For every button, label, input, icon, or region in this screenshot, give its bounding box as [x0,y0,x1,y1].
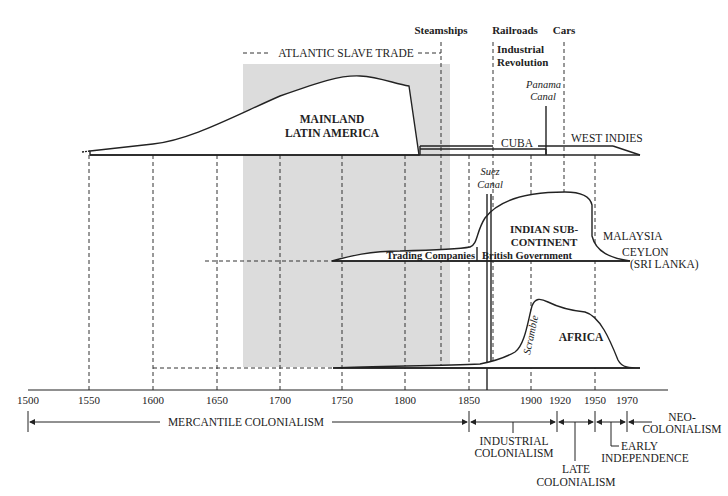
panama-canal-label-1: Panama [525,79,561,90]
neo-colonialism-label-2: COLONIALISM [642,423,721,435]
india-label-1: INDIAN SUB- [510,223,578,235]
west-indies-label: WEST INDIES [571,132,643,144]
neo-colonialism-label-1: NEO- [668,411,696,423]
cars-label: Cars [553,24,576,36]
malaysia-label: MALAYSIA [603,230,663,242]
period-bars [28,411,652,461]
industrial-revolution-label-2: Revolution [497,56,548,68]
panama-canal-label-2: Canal [530,91,556,102]
steamships-label: Steamships [414,24,468,36]
svg-text:1700: 1700 [269,394,292,406]
railroads-label: Railroads [492,24,538,36]
svg-text:1500: 1500 [17,394,40,406]
svg-text:1850: 1850 [458,394,481,406]
svg-text:1970: 1970 [616,394,639,406]
svg-text:1900: 1900 [520,394,543,406]
axis-tick-labels: 1500 1550 1600 1650 1700 1750 1800 1850 … [17,394,639,406]
india-label-2: CONTINENT [511,236,578,248]
suez-canal-label-1: Suez [480,166,499,177]
early-independence-label-2: INDEPENDENCE [601,452,689,464]
british-government-label: British Government [482,250,573,261]
early-independence-label-1: EARLY [621,440,659,452]
suez-canal-label-2: Canal [477,179,503,190]
slave-trade-label: ATLANTIC SLAVE TRADE [278,47,414,59]
industrial-colonialism-label-2: COLONIALISM [474,447,553,459]
industrial-colonialism-label-1: INDUSTRIAL [480,435,549,447]
cuba-label: CUBA [501,137,534,149]
late-colonialism-label-1: LATE [562,463,590,475]
mercantile-colonialism-label: MERCANTILE COLONIALISM [168,416,324,428]
late-colonialism-label-2: COLONIALISM [536,476,615,488]
africa-label: AFRICA [559,331,604,343]
latin-america-label-1: MAINLAND [300,113,365,125]
svg-text:1950: 1950 [584,394,607,406]
latin-america-label-2: LATIN AMERICA [285,127,380,139]
ceylon-label-1: CEYLON [622,246,669,258]
svg-text:1920: 1920 [549,394,572,406]
svg-text:1650: 1650 [206,394,229,406]
trading-companies-label: Trading Companies [386,250,475,261]
svg-text:1750: 1750 [331,394,354,406]
svg-text:1800: 1800 [394,394,417,406]
industrial-revolution-label-1: Industrial [497,43,544,55]
svg-text:1600: 1600 [142,394,165,406]
colonialism-timeline-diagram: ATLANTIC SLAVE TRADE Steamships Railroad… [0,0,728,496]
svg-text:1550: 1550 [78,394,101,406]
ceylon-label-2: (SRI LANKA) [630,258,699,271]
